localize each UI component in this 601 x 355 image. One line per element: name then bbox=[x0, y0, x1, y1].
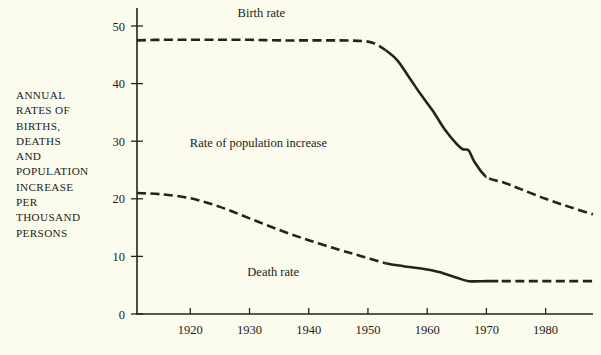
series-mask-0 bbox=[137, 40, 593, 215]
axis-lines bbox=[137, 8, 593, 314]
x-tick-label: 1930 bbox=[237, 323, 262, 337]
x-tick-label: 1980 bbox=[533, 323, 558, 337]
x-tick-label: 1920 bbox=[178, 323, 203, 337]
chart-series-group bbox=[137, 40, 593, 282]
series-line-observed-1 bbox=[137, 193, 593, 281]
x-tick-label: 1950 bbox=[355, 323, 380, 337]
y-tick-label: 40 bbox=[113, 77, 126, 91]
population-increase-label: Rate of population increase bbox=[190, 136, 328, 150]
x-tick-label: 1970 bbox=[474, 323, 499, 337]
series-line-estimated-1 bbox=[137, 193, 593, 281]
birth-rate-label: Birth rate bbox=[238, 6, 286, 20]
death-rate-label: Death rate bbox=[247, 265, 299, 279]
x-tick-label: 1940 bbox=[296, 323, 321, 337]
series-line-observed-0 bbox=[137, 40, 593, 215]
chart-figure: ANNUAL RATES OF BIRTHS, DEATHS AND POPUL… bbox=[0, 0, 601, 355]
x-tick-label: 1960 bbox=[415, 323, 440, 337]
chart-annotations-group: Birth rateRate of population increaseDea… bbox=[190, 6, 328, 279]
y-tick-label: 20 bbox=[113, 192, 126, 206]
series-line-estimated-0 bbox=[137, 40, 593, 215]
y-tick-label: 10 bbox=[113, 250, 126, 264]
chart-axes bbox=[131, 8, 593, 314]
y-tick-label: 50 bbox=[113, 20, 126, 34]
series-mask-1 bbox=[137, 193, 593, 281]
line-chart-plot: 010203040501920193019401950196019701980 … bbox=[0, 0, 601, 355]
y-tick-label: 30 bbox=[113, 135, 126, 149]
y-tick-label: 0 bbox=[119, 308, 125, 322]
